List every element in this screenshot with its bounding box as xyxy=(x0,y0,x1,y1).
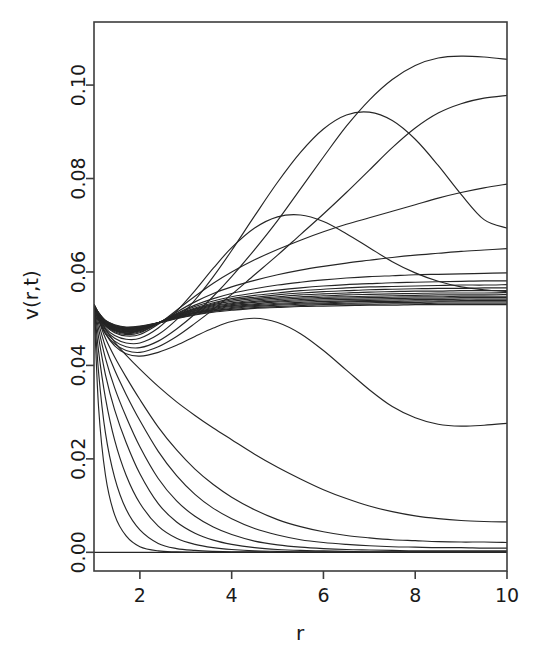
figure-panel: 2468100.000.020.040.060.080.10 r v(r,t) xyxy=(0,0,546,653)
series-group xyxy=(94,56,507,552)
x-tick-label: 4 xyxy=(226,584,238,606)
y-tick-label: 0.04 xyxy=(67,344,89,386)
series-line xyxy=(94,305,507,522)
axes-layer: 2468100.000.020.040.060.080.10 xyxy=(67,22,519,606)
x-axis-title: r xyxy=(296,621,305,645)
x-tick-label: 6 xyxy=(317,584,329,606)
series-line xyxy=(94,215,507,340)
y-tick-label: 0.10 xyxy=(67,64,89,106)
x-tick-label: 8 xyxy=(409,584,421,606)
series-line xyxy=(94,112,507,344)
y-tick-label: 0.06 xyxy=(67,251,89,293)
series-line xyxy=(94,305,507,548)
series-line xyxy=(94,305,507,328)
y-tick-label: 0.00 xyxy=(67,531,89,573)
series-line xyxy=(94,95,507,352)
x-tick-label: 10 xyxy=(495,584,519,606)
series-line xyxy=(94,305,507,543)
series-line xyxy=(94,184,507,336)
y-tick-label: 0.08 xyxy=(67,157,89,199)
y-tick-label: 0.02 xyxy=(67,438,89,480)
series-line xyxy=(94,249,507,335)
y-axis-title: v(r,t) xyxy=(19,270,43,320)
line-chart: 2468100.000.020.040.060.080.10 r v(r,t) xyxy=(0,0,546,653)
curves-layer xyxy=(94,56,507,552)
x-tick-label: 2 xyxy=(134,584,146,606)
